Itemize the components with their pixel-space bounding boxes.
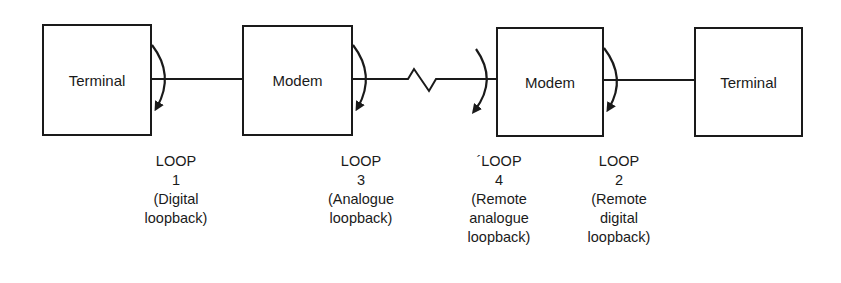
loop-2-number: 2 [564, 171, 674, 190]
loop-1-number: 1 [121, 171, 231, 190]
terminal-right-label: Terminal [720, 74, 777, 91]
loop-2-desc-line1: (Remote [564, 190, 674, 209]
loop-1-arrow-icon [152, 45, 165, 107]
loop-3-arrow-icon [353, 45, 366, 107]
loop-4-number: 4 [444, 171, 554, 190]
loop-4-desc-line3: loopback) [444, 228, 554, 247]
modem-right-label: Modem [525, 74, 575, 91]
wire-telephone-line [352, 69, 496, 91]
loop-1-caption: LOOP 1 (Digital loopback) [121, 152, 231, 228]
loop-4-desc-line1: (Remote [444, 190, 554, 209]
loop-3-caption: LOOP 3 (Analogue loopback) [306, 152, 416, 228]
loop-1-title: LOOP [121, 152, 231, 171]
loop-4-desc-line2: analogue [444, 209, 554, 228]
terminal-left-box: Terminal [42, 24, 152, 136]
modem-left-box: Modem [242, 25, 353, 136]
terminal-right-box: Terminal [694, 27, 803, 137]
modem-left-label: Modem [272, 72, 322, 89]
loop-2-title: LOOP [564, 152, 674, 171]
loop-4-caption: ´LOOP 4 (Remote analogue loopback) [444, 152, 554, 247]
loop-3-desc-line2: loopback) [306, 209, 416, 228]
loop-3-number: 3 [306, 171, 416, 190]
loop-1-desc-line1: (Digital [121, 190, 231, 209]
loop-1-desc-line2: loopback) [121, 209, 231, 228]
loop-2-desc-line3: loopback) [564, 228, 674, 247]
loop-3-desc-line1: (Analogue [306, 190, 416, 209]
terminal-left-label: Terminal [69, 72, 126, 89]
loop-2-arrow-icon [604, 48, 617, 108]
loop-4-title: ´LOOP [444, 152, 554, 171]
modem-right-box: Modem [496, 27, 604, 137]
loop-2-desc-line2: digital [564, 209, 674, 228]
loop-2-caption: LOOP 2 (Remote digital loopback) [564, 152, 674, 247]
loop-3-title: LOOP [306, 152, 416, 171]
